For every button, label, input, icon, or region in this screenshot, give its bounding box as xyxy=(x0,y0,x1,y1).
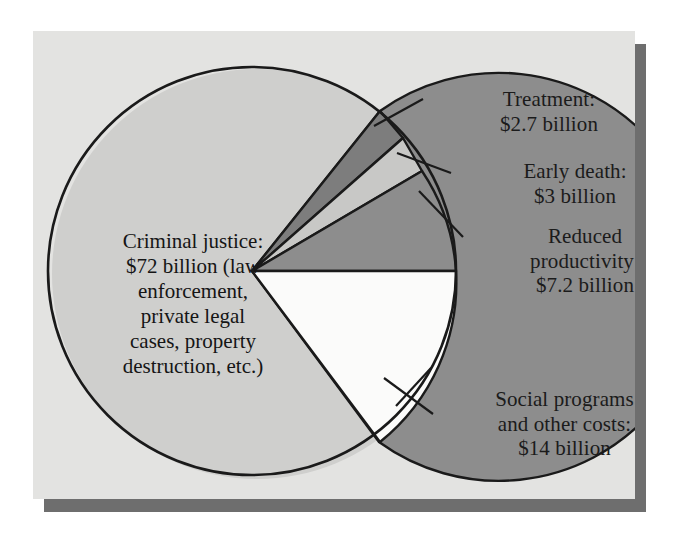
pie-chart-figure: Criminal justice: $72 billion (law enfor… xyxy=(0,0,679,545)
slice-label-early-death: Early death: $3 billion xyxy=(485,159,635,208)
slice-label-treatment: Treatment: $2.7 billion xyxy=(459,87,635,136)
chart-panel: Criminal justice: $72 billion (law enfor… xyxy=(33,31,635,499)
slice-label-reduced-productivity: Reduced productivity: $7.2 billion xyxy=(495,224,635,298)
slice-label-criminal-justice: Criminal justice: $72 billion (law enfor… xyxy=(89,229,297,379)
slice-label-social-programs: Social programs and other costs: $14 bil… xyxy=(457,387,635,461)
